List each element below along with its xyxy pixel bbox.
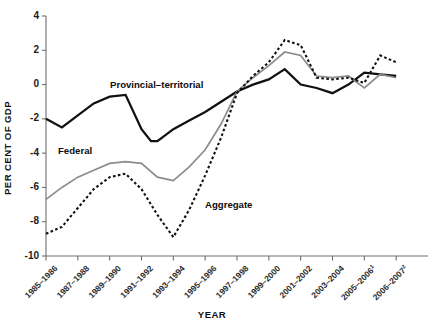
x-tick-label-group: 1991–1992 (118, 263, 155, 300)
x-tick-label-superscript: 1 (368, 263, 374, 269)
y-tick-label: -10 (25, 250, 40, 261)
y-tick-label: 0 (33, 78, 39, 89)
series-annotations: Provincial–territorialFederalAggregate (58, 79, 252, 210)
y-tick-label: -8 (30, 215, 39, 226)
series-line-provincial-territorial (46, 69, 396, 141)
x-axis: 1985–19861987–19881989–19901991–19921993… (23, 256, 428, 302)
x-tick-label: 1991–1992 (118, 263, 155, 300)
x-tick-label: 1987–1988 (55, 263, 92, 300)
x-tick-label: 1989–1990 (86, 263, 123, 300)
x-axis-title: YEAR (198, 309, 226, 320)
x-tick-label: 1993–1994 (150, 263, 187, 300)
y-axis-title: PER CENT OF GDP (2, 101, 13, 195)
y-tick-label: 4 (33, 10, 39, 21)
x-tick-label-group: 2001–2002 (277, 263, 314, 300)
series-line-federal (46, 52, 396, 199)
x-tick-label: 1985–1986 (23, 263, 60, 300)
y-tick-label: 2 (33, 44, 39, 55)
x-tick-label-group: 1999–2000 (246, 263, 283, 300)
x-tick-label: 1999–2000 (246, 263, 283, 300)
y-tick-label: -2 (30, 112, 39, 123)
x-tick-label: 2001–2002 (277, 263, 314, 300)
x-tick-label-group: 1997–1998 (214, 263, 251, 300)
x-tick-label: 1995–1996 (182, 263, 219, 300)
series-label-aggregate: Aggregate (205, 199, 252, 210)
series-label-provincial-territorial: Provincial–territorial (110, 79, 203, 90)
line-chart: 420-2-4-6-8-10 1985–19861987–19881989–19… (0, 0, 438, 327)
x-tick-label-superscript: 2 (400, 263, 406, 269)
x-tick-label-group: 1985–1986 (23, 263, 60, 300)
x-tick-label-group: 1993–1994 (150, 263, 187, 300)
x-tick-label: 1997–1998 (214, 263, 251, 300)
x-tick-label-group: 1995–1996 (182, 263, 219, 300)
chart-container: 420-2-4-6-8-10 1985–19861987–19881989–19… (0, 0, 438, 327)
x-tick-label-group: 2006–20072 (371, 263, 410, 302)
y-axis: 420-2-4-6-8-10 (25, 10, 46, 261)
y-tick-label: -4 (30, 147, 39, 158)
x-tick-label-group: 1987–1988 (55, 263, 92, 300)
x-tick-label-group: 1989–1990 (86, 263, 123, 300)
x-tick-label: 2006–20072 (371, 263, 410, 302)
series-label-federal: Federal (58, 145, 92, 156)
y-tick-label: -6 (30, 181, 39, 192)
